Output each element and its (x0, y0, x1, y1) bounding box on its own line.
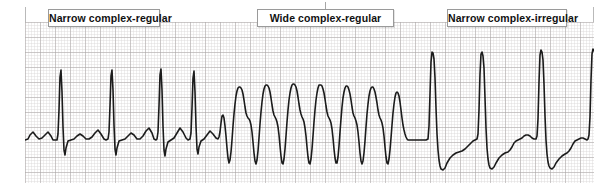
callout-narrow-complex-regular: Narrow complex-regular (48, 9, 160, 27)
ecg-trace-path (25, 49, 594, 170)
callout-wide-complex-regular: Wide complex-regular (257, 9, 394, 27)
ecg-paper (25, 22, 594, 183)
ecg-waveform-trace (25, 22, 594, 183)
ecg-figure: Narrow complex-regular Wide complex-regu… (0, 0, 613, 196)
callout-narrow-complex-irregular: Narrow complex-irregular (447, 9, 567, 27)
